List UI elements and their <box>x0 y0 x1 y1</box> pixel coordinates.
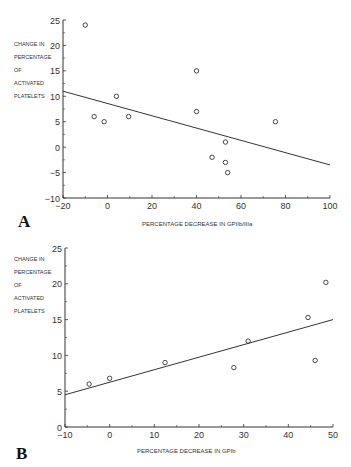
data-point <box>273 120 277 124</box>
data-point <box>306 315 310 319</box>
regression-line <box>65 320 333 395</box>
y-tick-label: 0 <box>57 423 62 433</box>
ylabel-line: PLATELETS <box>14 90 52 103</box>
data-point <box>194 69 198 73</box>
data-point <box>232 365 236 369</box>
ylabel-line: PLATELETS <box>14 305 52 318</box>
y-tick-label: 25 <box>52 244 62 254</box>
ylabel-line: OF <box>14 279 52 292</box>
x-tick-label: 40 <box>283 430 293 440</box>
x-axis-label-a: PERCENTAGE DECREASE IN GPIIb/IIIa <box>142 221 252 227</box>
ylabel-line: OF <box>14 64 52 77</box>
x-tick-label: 0 <box>107 430 112 440</box>
panel-label-a: A <box>18 212 30 232</box>
y-tick-label: 15 <box>52 315 62 325</box>
ylabel-line: CHANGE IN <box>14 38 52 51</box>
y-tick-label: 5 <box>55 117 60 127</box>
data-point <box>210 155 214 159</box>
panel-label-b: B <box>16 444 27 464</box>
figure-canvas: −20020406080100−10−50510152025−100102030… <box>0 0 351 467</box>
x-tick-label: 100 <box>322 201 337 211</box>
data-point <box>92 114 96 118</box>
data-point <box>87 382 91 386</box>
y-tick-label: −10 <box>45 194 60 204</box>
y-tick-label: 0 <box>55 143 60 153</box>
x-tick-label: 60 <box>236 201 246 211</box>
data-point <box>313 358 317 362</box>
x-tick-label: 50 <box>328 430 338 440</box>
x-tick-label: 80 <box>280 201 290 211</box>
data-point <box>223 140 227 144</box>
y-tick-label: 25 <box>50 16 60 26</box>
ylabel-line: PERCENTAGE <box>14 51 52 64</box>
x-tick-label: 40 <box>191 201 201 211</box>
regression-line <box>63 91 330 165</box>
x-tick-label: 0 <box>105 201 110 211</box>
y-tick-label: 10 <box>52 351 62 361</box>
ylabel-line: ACTIVATED <box>14 77 52 90</box>
x-tick-label: 20 <box>194 430 204 440</box>
data-point <box>107 376 111 380</box>
y-tick-label: 5 <box>57 387 62 397</box>
x-tick-label: 20 <box>147 201 157 211</box>
data-point <box>246 339 250 343</box>
ylabel-line: ACTIVATED <box>14 292 52 305</box>
ylabel-line: PERCENTAGE <box>14 266 52 279</box>
data-point <box>223 160 227 164</box>
ylabel-line: CHANGE IN <box>14 253 52 266</box>
y-tick-label: 20 <box>52 279 62 289</box>
x-tick-label: 30 <box>239 430 249 440</box>
y-axis-label-b: CHANGE IN PERCENTAGE OF ACTIVATED PLATEL… <box>14 253 52 318</box>
data-point <box>194 109 198 113</box>
data-point <box>102 120 106 124</box>
data-point <box>163 360 167 364</box>
y-tick-label: −5 <box>50 168 60 178</box>
data-point <box>324 280 328 284</box>
y-axis-label-a: CHANGE IN PERCENTAGE OF ACTIVATED PLATEL… <box>14 38 52 103</box>
x-axis-label-b: PERCENTAGE DECREASE IN GPIb <box>137 448 236 454</box>
data-point <box>126 114 130 118</box>
data-point <box>225 170 229 174</box>
x-tick-label: 10 <box>149 430 159 440</box>
data-point <box>114 94 118 98</box>
data-point <box>83 23 87 27</box>
